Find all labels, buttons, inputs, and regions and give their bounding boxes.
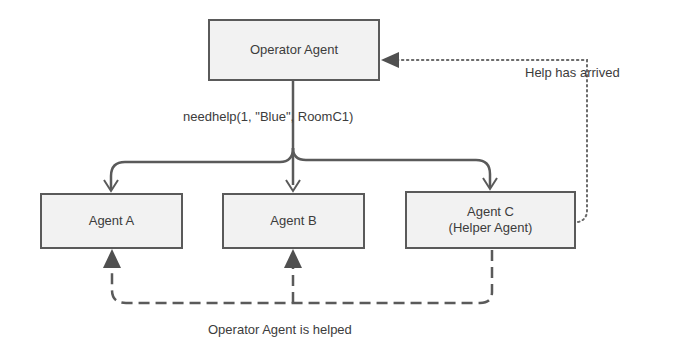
agent-a-node: Agent A <box>40 193 183 249</box>
agent-b-node: Agent B <box>222 193 365 249</box>
help-arrived-label: Help has arrived <box>525 65 620 81</box>
branch-to-agent-c <box>293 148 490 188</box>
agent-c-node: Agent C (Helper Agent) <box>405 191 576 249</box>
arrowhead-helped-a-icon <box>103 249 121 268</box>
broadcast-arrows <box>111 80 490 190</box>
helped-label: Operator Agent is helped <box>208 322 352 338</box>
agent-c-label: Agent C <box>467 204 514 220</box>
arrowhead-helped-b-icon <box>284 249 302 268</box>
agent-a-label: Agent A <box>89 213 135 229</box>
broadcast-message-label: needhelp(1, "Blue", RoomC1) <box>183 109 353 125</box>
operator-agent-label: Operator Agent <box>250 42 338 58</box>
agent-b-label: Agent B <box>270 213 316 229</box>
arrowhead-operator-icon <box>381 52 399 68</box>
agent-c-sublabel: (Helper Agent) <box>449 220 533 236</box>
helped-arrows <box>112 250 492 303</box>
branch-to-agent-a <box>111 148 293 190</box>
operator-agent-node: Operator Agent <box>208 19 380 81</box>
